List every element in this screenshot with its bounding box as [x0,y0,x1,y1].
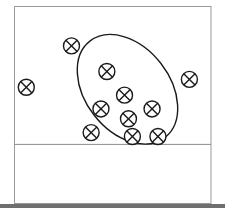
figure-caption [0,211,225,217]
circled-x-marker [150,129,166,145]
circled-x-marker [18,79,34,95]
circled-x-marker [83,125,99,141]
circled-x-marker [120,111,136,127]
circled-x-marker [93,101,109,117]
plot-frame [15,7,212,204]
circled-x-marker [63,38,79,54]
circled-x-marker [117,87,133,103]
circled-x-marker [144,101,160,117]
circled-x-marker [99,64,115,80]
circled-x-marker [124,129,140,145]
bottom-bar [0,204,225,208]
diagram-figure [0,0,225,217]
circled-x-marker [181,71,197,87]
